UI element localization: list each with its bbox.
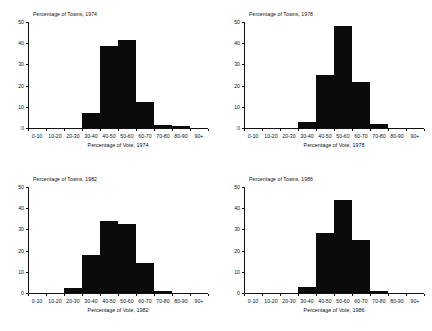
y-tick-label: 50 <box>222 19 240 25</box>
y-tick-mark <box>26 22 28 23</box>
x-tick-mark <box>316 294 317 296</box>
histogram-bar <box>370 291 388 293</box>
y-tick-mark <box>26 86 28 87</box>
histogram-bar <box>316 233 334 293</box>
x-tick-mark <box>406 129 407 131</box>
y-tick-label: 40 <box>6 40 24 46</box>
x-tick-mark <box>406 294 407 296</box>
x-tick-mark <box>46 129 47 131</box>
x-tick-label: 90+ <box>404 298 426 304</box>
y-tick-label: 20 <box>6 83 24 89</box>
chart-title: Percentage of Towns, 1982 <box>33 176 97 182</box>
y-tick-label: 30 <box>6 61 24 67</box>
y-tick-label: 50 <box>6 184 24 190</box>
y-axis-line <box>28 22 29 128</box>
x-tick-mark <box>388 294 389 296</box>
y-tick-label: 40 <box>6 205 24 211</box>
y-tick-label: 50 <box>6 19 24 25</box>
histogram-bar <box>316 75 334 128</box>
histogram-bar <box>100 46 118 128</box>
y-tick-mark <box>242 86 244 87</box>
y-axis-line <box>244 22 245 128</box>
y-tick-mark <box>26 251 28 252</box>
x-tick-mark <box>154 129 155 131</box>
y-tick-mark <box>242 208 244 209</box>
y-tick-mark <box>242 187 244 188</box>
y-tick-label: 10 <box>222 104 240 110</box>
y-tick-mark <box>242 43 244 44</box>
histogram-bar <box>100 221 118 293</box>
histogram-bar <box>352 82 370 128</box>
y-tick-mark <box>26 229 28 230</box>
histogram-bar <box>64 288 82 293</box>
x-axis-title: Percentage of Vote, 1978 <box>244 142 424 148</box>
y-tick-label: 0 <box>6 290 24 296</box>
y-tick-mark <box>26 43 28 44</box>
y-tick-label: 20 <box>222 83 240 89</box>
histogram-bar <box>82 113 100 128</box>
y-tick-mark <box>26 272 28 273</box>
x-tick-mark <box>280 129 281 131</box>
x-tick-mark <box>262 129 263 131</box>
y-tick-label: 30 <box>222 226 240 232</box>
x-tick-mark <box>244 294 245 296</box>
x-tick-mark <box>154 294 155 296</box>
x-tick-mark <box>370 294 371 296</box>
x-tick-mark <box>118 129 119 131</box>
y-tick-mark <box>242 22 244 23</box>
y-tick-mark <box>242 64 244 65</box>
x-tick-label: 90+ <box>188 133 210 139</box>
y-tick-label: 30 <box>222 61 240 67</box>
x-tick-mark <box>316 129 317 131</box>
x-tick-mark <box>208 129 209 131</box>
x-tick-mark <box>424 294 425 296</box>
y-tick-label: 30 <box>6 226 24 232</box>
y-tick-label: 50 <box>222 184 240 190</box>
x-axis-title: Percentage of Vote, 1982 <box>28 307 208 313</box>
histogram-panel-grid: Percentage of Towns, 1974010203040500-10… <box>0 0 432 331</box>
x-tick-mark <box>352 294 353 296</box>
x-tick-mark <box>190 294 191 296</box>
histogram-bar <box>118 224 136 293</box>
y-tick-label: 10 <box>6 104 24 110</box>
x-tick-label: 90+ <box>404 133 426 139</box>
chart-title: Percentage of Towns, 1978 <box>249 11 313 17</box>
y-tick-mark <box>242 251 244 252</box>
x-tick-mark <box>388 129 389 131</box>
histogram-bar <box>136 102 154 129</box>
x-tick-mark <box>46 294 47 296</box>
y-tick-label: 40 <box>222 40 240 46</box>
histogram-bar <box>154 125 172 128</box>
y-tick-label: 20 <box>222 248 240 254</box>
x-tick-mark <box>424 129 425 131</box>
histogram-bar <box>172 126 190 128</box>
histogram-bar <box>298 287 316 293</box>
chart-panel-1974: Percentage of Towns, 1974010203040500-10… <box>0 0 216 165</box>
x-tick-mark <box>172 294 173 296</box>
x-tick-mark <box>28 294 29 296</box>
y-tick-label: 10 <box>6 269 24 275</box>
x-tick-mark <box>190 129 191 131</box>
histogram-bar <box>334 200 352 293</box>
y-tick-label: 0 <box>222 125 240 131</box>
y-tick-label: 40 <box>222 205 240 211</box>
histogram-bar <box>136 263 154 293</box>
x-tick-mark <box>298 294 299 296</box>
x-tick-mark <box>370 129 371 131</box>
y-tick-label: 0 <box>222 290 240 296</box>
histogram-bar <box>118 40 136 128</box>
x-tick-mark <box>352 129 353 131</box>
y-tick-mark <box>26 107 28 108</box>
histogram-bar <box>352 240 370 293</box>
histogram-bar <box>334 26 352 128</box>
x-axis-title: Percentage of Vote, 1974 <box>28 142 208 148</box>
x-tick-mark <box>172 129 173 131</box>
y-tick-label: 20 <box>6 248 24 254</box>
y-tick-mark <box>242 229 244 230</box>
y-tick-mark <box>26 208 28 209</box>
y-tick-label: 0 <box>6 125 24 131</box>
x-tick-mark <box>28 129 29 131</box>
x-tick-mark <box>298 129 299 131</box>
histogram-bar <box>298 122 316 128</box>
chart-title: Percentage of Towns, 1974 <box>33 11 97 17</box>
